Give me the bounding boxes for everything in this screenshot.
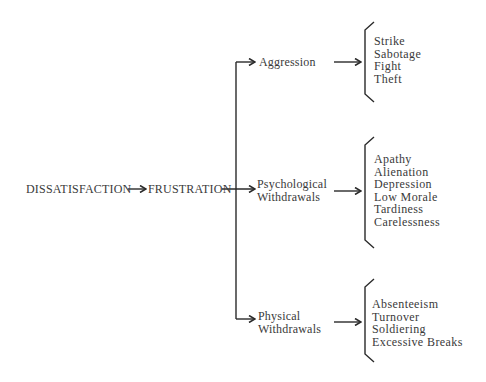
outcome-item: Depression — [374, 178, 440, 191]
outcome-item: Soldiering — [372, 323, 463, 336]
node-frustration: FRUSTRATION — [148, 183, 232, 196]
outcomes-physical: Absenteeism Turnover Soldiering Excessiv… — [372, 298, 463, 348]
outcome-item: Fight — [374, 60, 421, 73]
bracket-psychological — [365, 137, 374, 248]
outcome-item: Apathy — [374, 153, 440, 166]
node-physical-withdrawals: Physical Withdrawals — [258, 310, 321, 336]
branch-label-line2: Withdrawals — [257, 191, 327, 204]
outcome-item: Theft — [374, 73, 421, 86]
branch-label-line2: Withdrawals — [258, 323, 321, 336]
outcome-item: Tardiness — [374, 203, 440, 216]
outcomes-aggression: Strike Sabotage Fight Theft — [374, 35, 421, 85]
node-dissatisfaction: DISSATISFACTION — [26, 183, 131, 196]
node-aggression: Aggression — [259, 56, 316, 69]
outcome-item: Excessive Breaks — [372, 336, 463, 349]
outcomes-psychological: Apathy Alienation Depression Low Morale … — [374, 153, 440, 228]
node-psychological-withdrawals: Psychological Withdrawals — [257, 178, 327, 204]
outcome-item: Absenteeism — [372, 298, 463, 311]
bracket-aggression — [365, 22, 374, 102]
branch-label: Aggression — [259, 56, 316, 69]
outcome-item: Carelessness — [374, 216, 440, 229]
outcome-item: Strike — [374, 35, 421, 48]
